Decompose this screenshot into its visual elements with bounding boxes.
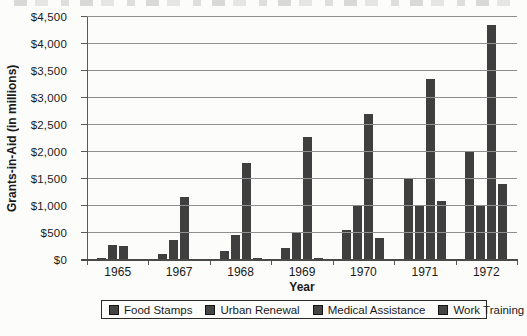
bar-1972-medical-assistance	[487, 25, 496, 260]
gridline	[87, 97, 517, 98]
bar-1970-medical-assistance	[364, 114, 373, 260]
x-axis-tick-label: 1965	[87, 265, 148, 279]
y-axis-labels: $0$500$1,000$1,500$2,000$2,500$3,000$3,5…	[0, 17, 79, 260]
bar-1971-food-stamps	[404, 179, 413, 260]
x-axis-tick-label: 1968	[210, 265, 271, 279]
y-axis-tick-label: $1,000	[31, 200, 67, 212]
gridline	[87, 124, 517, 125]
legend-label: Food Stamps	[124, 304, 192, 316]
bar-1972-food-stamps	[465, 152, 474, 260]
plot-area	[87, 17, 517, 260]
gridline	[87, 70, 517, 71]
year-group-1967	[148, 17, 209, 260]
bar-1971-urban-renewal	[415, 206, 424, 260]
y-axis-tick-label: $1,500	[31, 173, 67, 185]
bar-1972-urban-renewal	[476, 206, 485, 260]
y-axis-tick-label: $4,000	[31, 38, 67, 50]
legend-label: Urban Renewal	[220, 304, 299, 316]
legend-marker-icon	[438, 305, 448, 315]
year-group-1965	[87, 17, 148, 260]
bar-groups	[87, 17, 517, 260]
x-axis-title: Year	[87, 280, 517, 294]
year-group-1969	[271, 17, 332, 260]
bar-1970-work-training	[375, 238, 384, 260]
year-group-1971	[394, 17, 455, 260]
bar-1967-urban-renewal	[169, 240, 178, 260]
bar-1967-medical-assistance	[180, 197, 189, 260]
x-axis-tick-label: 1967	[148, 265, 209, 279]
year-group-1968	[210, 17, 271, 260]
bar-1969-urban-renewal	[292, 232, 301, 260]
x-axis-tick-label: 1972	[456, 265, 517, 279]
legend-marker-icon	[205, 305, 215, 315]
bar-1971-work-training	[437, 201, 446, 260]
legend-label: Work Training	[453, 304, 524, 316]
bar-1970-food-stamps	[342, 230, 351, 260]
bar-1968-urban-renewal	[231, 235, 240, 260]
x-axis-line	[81, 259, 518, 261]
bar-1965-urban-renewal	[108, 245, 117, 260]
legend-item-food-stamps: Food Stamps	[109, 304, 192, 316]
y-axis-tick-label: $2,000	[31, 146, 67, 158]
bar-1965-medical-assistance	[119, 246, 128, 260]
chart-page: Grants-in-Aid (in millions) $0$500$1,000…	[0, 0, 527, 336]
y-axis-line	[87, 17, 88, 260]
y-axis-tick-label: $4,500	[31, 11, 67, 23]
legend-marker-icon	[313, 305, 323, 315]
year-group-1972	[456, 17, 517, 260]
x-axis-tick-labels: 1965196719681969197019711972	[87, 265, 517, 279]
year-group-1970	[333, 17, 394, 260]
legend-marker-icon	[109, 305, 119, 315]
y-axis-tick-label: $500	[41, 227, 67, 239]
legend: Food StampsUrban RenewalMedical Assistan…	[101, 300, 487, 319]
gridline	[87, 178, 517, 179]
legend-item-medical-assistance: Medical Assistance	[313, 304, 426, 316]
bar-1972-work-training	[498, 184, 507, 260]
y-axis-tick-label: $2,500	[31, 119, 67, 131]
y-axis-tick-label: $0	[54, 254, 67, 266]
legend-item-urban-renewal: Urban Renewal	[205, 304, 299, 316]
gridline	[87, 232, 517, 233]
gridline	[87, 43, 517, 44]
y-axis-tick-label: $3,500	[31, 65, 67, 77]
y-axis-tick-label: $3,000	[31, 92, 67, 104]
x-axis-tick-label: 1971	[394, 265, 455, 279]
gridline	[87, 205, 517, 206]
legend-item-work-training: Work Training	[438, 304, 524, 316]
x-axis-tick-label: 1970	[333, 265, 394, 279]
x-axis-tick-label: 1969	[271, 265, 332, 279]
scan-artifact-strip	[14, 0, 523, 6]
legend-label: Medical Assistance	[328, 304, 426, 316]
bar-1969-medical-assistance	[303, 137, 312, 260]
gridline	[87, 16, 517, 17]
gridline	[87, 151, 517, 152]
